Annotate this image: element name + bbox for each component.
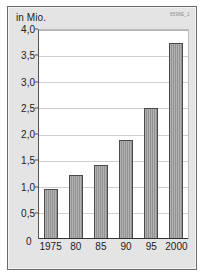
- x-axis-tick-label: 90: [121, 241, 132, 252]
- y-axis-tick-mark: [35, 186, 38, 187]
- y-axis-tick-label: 3,0: [21, 76, 35, 87]
- chart-frame: in Mio. 8598E_1 0,51,01,52,02,53,03,54,0…: [7, 6, 197, 270]
- chart-unit-label: in Mio.: [16, 12, 46, 23]
- chart-bar[interactable]: [169, 43, 183, 239]
- x-axis-labels-group: 1975808590952000: [38, 241, 189, 255]
- bar-slot: [94, 30, 108, 239]
- y-axis-tick-label: 2,5: [21, 102, 35, 113]
- y-axis-tick-mark: [35, 107, 38, 108]
- bar-slot: [44, 30, 58, 239]
- chart-bar[interactable]: [69, 175, 83, 239]
- y-axis-tick-mark: [35, 81, 38, 82]
- bar-slot: [169, 30, 183, 239]
- y-axis-tick-label: 0,5: [21, 207, 35, 218]
- y-axis-tick-label: 2,0: [21, 129, 35, 140]
- plot-area: [38, 29, 189, 239]
- y-axis-tick-mark: [35, 55, 38, 56]
- chart-bar[interactable]: [94, 165, 108, 239]
- bars-group: [39, 30, 188, 239]
- reference-code-label: 8598E_1: [170, 12, 190, 17]
- y-axis-tick-mark: [35, 134, 38, 135]
- chart-bar[interactable]: [119, 140, 133, 239]
- x-axis-tick-label: 85: [95, 241, 106, 252]
- y-axis-tick-mark: [35, 212, 38, 213]
- bar-slot: [69, 30, 83, 239]
- bar-slot: [119, 30, 133, 239]
- x-axis-line: [39, 238, 188, 239]
- y-axis-tick-mark: [35, 160, 38, 161]
- y-axis-zero-label: 0: [26, 236, 32, 247]
- bar-slot: [144, 30, 158, 239]
- chart-bar[interactable]: [44, 189, 58, 239]
- y-axis-tick-mark: [35, 29, 38, 30]
- y-axis-tick-label: 1,5: [21, 155, 35, 166]
- plot-wrapper: 0,51,01,52,02,53,03,54,0: [38, 29, 189, 239]
- x-axis-tick-label: 1975: [39, 241, 61, 252]
- x-axis-tick-label: 2000: [165, 241, 187, 252]
- y-axis-tick-label: 1,0: [21, 181, 35, 192]
- y-axis-tick-label: 4,0: [21, 24, 35, 35]
- x-axis-tick-label: 95: [146, 241, 157, 252]
- y-axis-tick-label: 3,5: [21, 50, 35, 61]
- x-axis-tick-label: 80: [70, 241, 81, 252]
- chart-bar[interactable]: [144, 108, 158, 239]
- chart-page: in Mio. 8598E_1 0,51,01,52,02,53,03,54,0…: [0, 0, 204, 277]
